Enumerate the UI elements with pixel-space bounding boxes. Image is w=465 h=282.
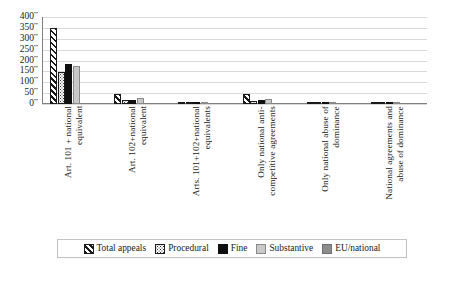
legend-item[interactable]: Substantive [256,243,313,254]
y-axis-tick-mark [34,12,38,13]
y-axis-tick-label: 150 [20,67,34,77]
x-axis-label: Art. 102+national equivalent [127,106,149,173]
x-axis-label-cell: Only national anti- competitive agreemen… [235,106,299,224]
y-axis-tick-label: 250 [20,45,34,55]
gridline [42,104,427,105]
x-axis-label-cell: Art. 102+national equivalent [106,106,170,224]
x-axis-label: Art. 101 + national equivalent [63,106,85,178]
bar [307,102,314,104]
bar-group [106,17,170,104]
bar-group [170,17,234,104]
legend-item[interactable]: EU/national [322,243,380,254]
legend-swatch-icon [256,244,266,254]
bar [243,94,250,104]
bar-groups [42,17,427,104]
bar-group [363,17,427,104]
legend-swatch-icon [155,244,165,254]
y-axis-tick-label: 350 [20,23,34,33]
bar [65,64,72,104]
legend-item[interactable]: Total appeals [84,243,147,254]
bar [137,98,144,104]
bar [265,99,272,104]
legend-item[interactable]: Procedural [155,243,209,254]
x-axis-label-cell: Only national abuse of dominance [299,106,363,224]
y-axis-tick-mark [34,45,38,46]
bar [58,72,65,104]
bar [371,102,378,104]
legend-label: Substantive [269,243,313,254]
y-axis-tick-mark [34,67,38,68]
bar [314,102,321,104]
x-axis-label: Only national anti- competitive agreemen… [256,106,278,196]
legend-label: Total appeals [97,243,147,254]
bar [258,100,265,104]
y-axis-tick-label: 300 [20,34,34,44]
y-axis-tick-label: 100 [20,78,34,88]
bar-chart: 400350300250200150100500 Art. 101 + nati… [0,0,465,282]
legend-item[interactable]: Fine [218,243,248,254]
plot-area [42,17,427,104]
y-axis-tick-label: 50 [25,88,35,98]
x-axis-category-labels: Art. 101 + national equivalentArt. 102+n… [42,106,427,224]
bar-group [42,17,106,104]
bar [322,102,329,104]
y-axis-tick-label: 400 [20,12,34,22]
bar [378,102,385,104]
y-axis-tick-label: 0 [29,99,34,109]
bar [50,28,57,104]
bar [114,94,121,104]
bar [186,102,193,104]
bar-group [235,17,299,104]
y-axis-tick-label: 200 [20,56,34,66]
x-axis-label-cell: National agreements and abuse of dominan… [363,106,427,224]
y-axis-tick-mark [34,23,38,24]
y-axis-tick-mark [34,78,38,79]
chart-legend: Total appealsProceduralFineSubstantiveEU… [57,239,407,258]
legend-swatch-icon [322,244,332,254]
legend-swatch-icon [218,244,228,254]
bar-group [299,17,363,104]
bar [393,102,400,104]
bar [122,100,129,104]
y-axis-tick-mark [34,99,38,100]
x-axis-label-cell: Art. 101 + national equivalent [42,106,106,224]
x-axis-label: Arts. 101+102+national equivalents [191,106,213,196]
bar [178,102,185,104]
x-axis-label: National agreements and abuse of dominan… [384,106,406,200]
bar [129,100,136,104]
y-axis-tick-mark [34,34,38,35]
x-axis-label-cell: Arts. 101+102+national equivalents [170,106,234,224]
bar [329,102,336,104]
bar [201,102,208,104]
legend-swatch-icon [84,244,94,254]
bar [193,102,200,104]
y-axis: 400350300250200150100500 [0,17,38,104]
legend-label: Procedural [168,243,209,254]
x-axis-label: Only national abuse of dominance [320,106,342,192]
bar [386,102,393,104]
bar [73,66,80,104]
legend-label: EU/national [335,243,380,254]
y-axis-tick-mark [34,88,38,89]
y-axis-tick-mark [34,56,38,57]
legend-label: Fine [231,243,248,254]
bar [250,101,257,104]
